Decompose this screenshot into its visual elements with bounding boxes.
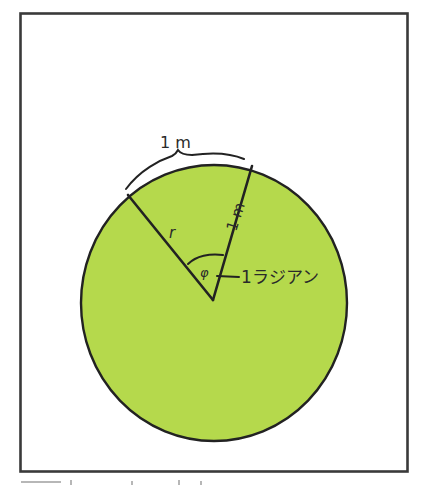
cropped-caption-fragments [21, 480, 202, 485]
circle-disk [81, 165, 347, 441]
radius-label-r: r [169, 224, 176, 242]
radian-diagram: 1 m r 1 m φ 1ラジアン [0, 0, 421, 485]
angle-symbol-phi: φ [200, 265, 209, 280]
angle-callout-label: 1ラジアン [241, 267, 319, 287]
callout-leader-line [217, 276, 239, 277]
arc-length-label: 1 m [160, 133, 191, 152]
